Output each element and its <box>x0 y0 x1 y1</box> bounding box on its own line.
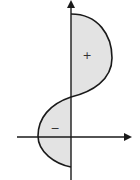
vertical-axis-arrow-icon <box>67 0 75 8</box>
positive-label: + <box>82 49 91 62</box>
diagram-canvas: + − <box>0 0 140 180</box>
negative-label: − <box>50 122 59 135</box>
horizontal-axis-arrow-icon <box>124 133 132 141</box>
